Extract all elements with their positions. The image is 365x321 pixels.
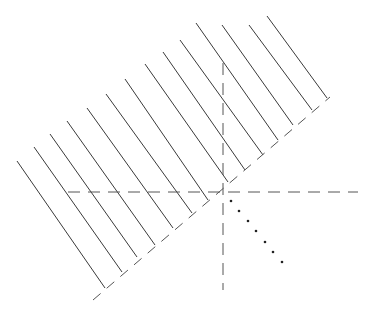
ray-dot [238,210,241,213]
parallel-line [180,40,263,155]
parallel-line [196,23,278,140]
ray-dot [264,241,267,244]
dashed-axes-group [68,63,358,290]
dashed-baseline-group [93,97,330,300]
ray-dot [272,251,275,254]
dashed-baseline [93,97,330,300]
diagram-canvas [0,0,365,321]
parallel-line [17,161,105,288]
ray-dot [247,220,250,223]
ray-dot [230,200,233,203]
parallel-line [50,134,137,257]
diagram-svg [0,0,365,321]
ray-dot [281,261,284,264]
parallel-line [145,64,228,182]
parallel-lines-group [17,16,327,288]
parallel-line [34,147,122,272]
parallel-line [249,25,312,110]
parallel-line [67,121,155,245]
ray-dot [255,230,258,233]
dotted-ray-group [230,200,284,264]
parallel-line [125,79,208,200]
parallel-line [267,16,327,98]
